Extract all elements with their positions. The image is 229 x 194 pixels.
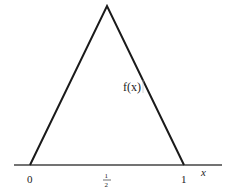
triangle-function-curve: [30, 6, 184, 165]
tick-label-0: 0: [27, 173, 33, 185]
function-label: f(x): [123, 80, 141, 94]
triangle-function-diagram: f(x) x 0 1 2 1: [0, 0, 229, 194]
tick-label-half-denominator: 2: [105, 181, 109, 189]
x-axis-label: x: [200, 166, 206, 178]
tick-label-1: 1: [181, 173, 187, 185]
tick-label-half-numerator: 1: [105, 172, 109, 180]
